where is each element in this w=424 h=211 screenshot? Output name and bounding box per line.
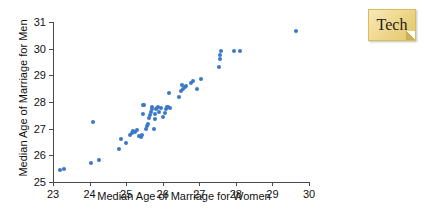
- data-point: [119, 137, 123, 141]
- y-tick-label: 31: [34, 17, 46, 28]
- data-point: [199, 77, 203, 81]
- x-tick: [90, 182, 91, 186]
- data-point: [219, 49, 223, 53]
- data-point: [168, 106, 172, 110]
- plot-area: 25262728293031 2324252627282930: [53, 18, 315, 182]
- data-point: [217, 65, 221, 69]
- data-point: [184, 84, 188, 88]
- data-point: [161, 115, 165, 119]
- x-axis-title: Median Age of Marriage for Women: [53, 190, 315, 202]
- data-point: [238, 49, 242, 53]
- x-tick: [236, 182, 237, 186]
- x-tick: [126, 182, 127, 186]
- data-point: [191, 79, 195, 83]
- data-point: [152, 127, 156, 131]
- y-tick: [49, 129, 53, 130]
- x-axis-line: [53, 182, 309, 183]
- tech-badge: Tech: [368, 9, 416, 41]
- data-point: [146, 122, 150, 126]
- data-point: [232, 49, 236, 53]
- data-point: [159, 106, 163, 110]
- tech-badge-label: Tech: [377, 16, 408, 34]
- data-point: [177, 95, 181, 99]
- data-point: [153, 117, 157, 121]
- data-point: [167, 91, 171, 95]
- y-tick: [49, 75, 53, 76]
- data-point: [117, 147, 121, 151]
- data-point: [163, 111, 167, 115]
- data-point: [89, 161, 93, 165]
- y-tick-label: 26: [34, 150, 46, 161]
- data-point: [195, 87, 199, 91]
- data-point: [141, 112, 145, 116]
- scatter-plot-figure: 25262728293031 2324252627282930 Median A…: [0, 0, 424, 211]
- data-point: [91, 120, 95, 124]
- y-tick: [49, 49, 53, 50]
- data-point: [124, 141, 128, 145]
- x-tick: [309, 182, 310, 186]
- data-point: [62, 167, 66, 171]
- data-point: [140, 133, 144, 137]
- y-tick-label: 28: [34, 97, 46, 108]
- badge-fold-corner: [406, 31, 415, 40]
- data-point: [142, 103, 146, 107]
- y-tick-label: 27: [34, 123, 46, 134]
- data-point: [218, 57, 222, 61]
- x-tick: [163, 182, 164, 186]
- x-tick: [53, 182, 54, 186]
- data-point: [294, 29, 298, 33]
- y-tick-label: 29: [34, 70, 46, 81]
- data-point: [135, 128, 139, 132]
- y-tick: [49, 102, 53, 103]
- y-tick-label: 30: [34, 43, 46, 54]
- x-tick: [199, 182, 200, 186]
- y-tick: [49, 22, 53, 23]
- y-axis-title: Median Age of Marriage for Men: [17, 13, 29, 183]
- data-point: [157, 110, 161, 114]
- data-point: [97, 158, 101, 162]
- y-tick: [49, 155, 53, 156]
- y-axis-line: [53, 22, 54, 182]
- data-point: [218, 53, 222, 57]
- x-tick: [272, 182, 273, 186]
- y-tick-label: 25: [34, 177, 46, 188]
